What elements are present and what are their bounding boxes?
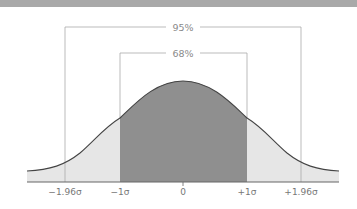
tick-label-pos-1: +1σ [238,187,257,197]
tick-label-pos-1-96: +1.96σ [284,187,318,197]
outer-area-right [247,118,339,182]
inner-area [120,81,247,182]
tick-label-zero: 0 [180,187,186,197]
outer-area [27,118,120,182]
tick-label-neg-1: −1σ [111,187,130,197]
label-68: 68% [172,48,193,59]
label-95: 95% [172,22,193,33]
tick-label-neg-1-96: −1.96σ [48,187,82,197]
normal-curve-diagram: 95% 68% −1.96σ −1σ 0 +1σ +1.96σ [0,0,357,209]
